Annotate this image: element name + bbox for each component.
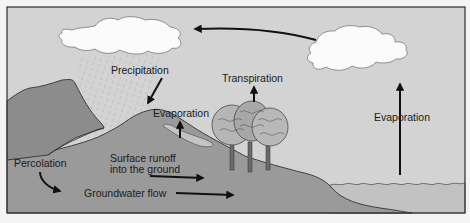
label-transpiration: Transpiration xyxy=(222,73,283,84)
label-percolation: Percolation xyxy=(14,158,67,169)
label-evaporation-land: Evaporation xyxy=(153,108,209,119)
label-surface-runoff-2: into the ground xyxy=(110,164,180,175)
label-precipitation: Precipitation xyxy=(111,65,169,76)
label-evaporation-water: Evaporation xyxy=(374,112,430,123)
label-groundwater-flow: Groundwater flow xyxy=(84,188,166,199)
